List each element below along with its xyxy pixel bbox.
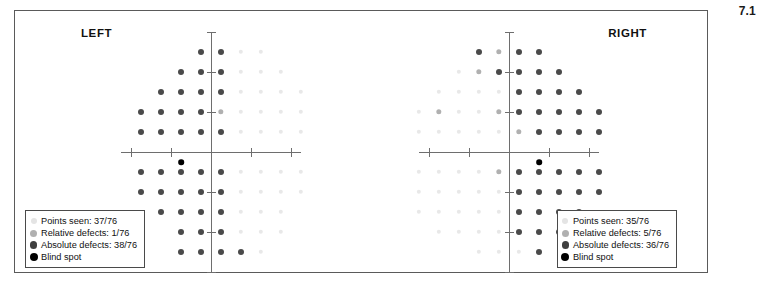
field-point-seen [259, 70, 263, 74]
field-point-absolute-defect [536, 129, 542, 135]
field-point-seen [279, 130, 283, 134]
axis-tick-y [505, 32, 514, 33]
field-point-seen [279, 70, 283, 74]
vertical-axis [211, 32, 212, 272]
field-point-absolute-defect [198, 129, 204, 135]
axis-tick-x [291, 148, 292, 157]
axis-tick-y [505, 272, 514, 273]
field-point-seen [259, 130, 263, 134]
field-point-seen [477, 130, 481, 134]
field-point-absolute-defect [178, 109, 184, 115]
axis-tick-x [429, 148, 430, 157]
field-point-seen [437, 230, 441, 234]
figure-number: 7.1 [739, 4, 756, 18]
field-point-seen [239, 170, 243, 174]
field-point-seen [259, 50, 263, 54]
field-point-seen [477, 110, 481, 114]
field-point-seen [477, 190, 481, 194]
field-point-absolute-defect [596, 169, 602, 175]
field-point-absolute-defect [178, 209, 184, 215]
field-point-seen [457, 110, 461, 114]
field-point-seen [477, 250, 481, 254]
field-point-absolute-defect [596, 109, 602, 115]
field-point-relative-defect [516, 129, 521, 134]
field-point-seen [477, 210, 481, 214]
field-point-seen [517, 250, 521, 254]
blind-spot-dot-icon [563, 253, 573, 261]
field-point-seen [457, 210, 461, 214]
field-point-absolute-defect [536, 169, 542, 175]
field-point-absolute-defect [198, 109, 204, 115]
axis-tick-x [589, 148, 590, 157]
legend-row-blind: Blind spot [563, 251, 669, 263]
field-point-seen [259, 250, 263, 254]
field-point-absolute-defect [158, 129, 164, 135]
field-point-relative-defect [218, 109, 223, 114]
field-point-seen [477, 90, 481, 94]
field-point-seen [299, 170, 303, 174]
field-point-absolute-defect [218, 229, 224, 235]
eye-label-left: LEFT [81, 27, 112, 39]
absolute-defect-dot-icon [563, 241, 573, 249]
axis-tick-y [505, 192, 514, 193]
field-point-absolute-defect [556, 189, 562, 195]
field-point-seen [497, 90, 501, 94]
field-point-seen [239, 50, 243, 54]
field-point-seen [497, 230, 501, 234]
field-point-absolute-defect [516, 89, 522, 95]
blind-spot-marker [536, 159, 542, 165]
field-point-absolute-defect [218, 189, 224, 195]
field-point-seen [299, 90, 303, 94]
eye-label-right: RIGHT [608, 27, 647, 39]
field-point-absolute-defect [516, 169, 522, 175]
field-point-seen [437, 190, 441, 194]
legend-row-blind: Blind spot [31, 251, 137, 263]
field-point-seen [457, 90, 461, 94]
field-point-absolute-defect [178, 229, 184, 235]
legend-row-relative: Relative defects: 5/76 [563, 227, 669, 239]
axis-tick-x [469, 148, 470, 157]
field-point-seen [239, 230, 243, 234]
field-point-absolute-defect [218, 69, 224, 75]
field-point-absolute-defect [576, 189, 582, 195]
field-point-seen [279, 170, 283, 174]
field-point-seen [497, 190, 501, 194]
field-point-relative-defect [496, 49, 501, 54]
axis-tick-y [207, 272, 216, 273]
field-point-seen [259, 110, 263, 114]
field-point-relative-defect [496, 109, 501, 114]
relative-defect-dot-icon [563, 230, 573, 237]
axis-tick-x [171, 148, 172, 157]
field-point-seen [417, 190, 421, 194]
field-point-seen [497, 210, 501, 214]
field-point-seen [259, 190, 263, 194]
legend-label-blind: Blind spot [41, 251, 81, 263]
field-point-seen [457, 190, 461, 194]
legend-label-blind: Blind spot [573, 251, 613, 263]
field-point-absolute-defect [576, 169, 582, 175]
field-point-absolute-defect [198, 49, 204, 55]
field-point-absolute-defect [198, 89, 204, 95]
field-point-absolute-defect [178, 249, 184, 255]
field-point-absolute-defect [556, 109, 562, 115]
field-point-absolute-defect [218, 49, 224, 55]
field-point-seen [239, 70, 243, 74]
field-point-seen [239, 90, 243, 94]
legend-row-absolute: Absolute defects: 38/76 [31, 239, 137, 251]
field-point-seen [477, 230, 481, 234]
field-point-seen [457, 70, 461, 74]
field-point-seen [417, 170, 421, 174]
legend-row-seen: Points seen: 37/76 [31, 215, 137, 227]
field-point-absolute-defect [198, 229, 204, 235]
field-point-absolute-defect [516, 49, 522, 55]
field-point-absolute-defect [178, 169, 184, 175]
field-point-absolute-defect [556, 129, 562, 135]
field-point-seen [259, 170, 263, 174]
axis-tick-y [207, 232, 216, 233]
field-point-absolute-defect [536, 209, 542, 215]
field-point-absolute-defect [536, 49, 542, 55]
visual-field-chart-left: LEFT Points seen: 37/76 Relative defects… [17, 11, 357, 274]
field-point-seen [477, 170, 481, 174]
legend-label-absolute: Absolute defects: 36/76 [573, 239, 669, 251]
field-point-seen [239, 130, 243, 134]
